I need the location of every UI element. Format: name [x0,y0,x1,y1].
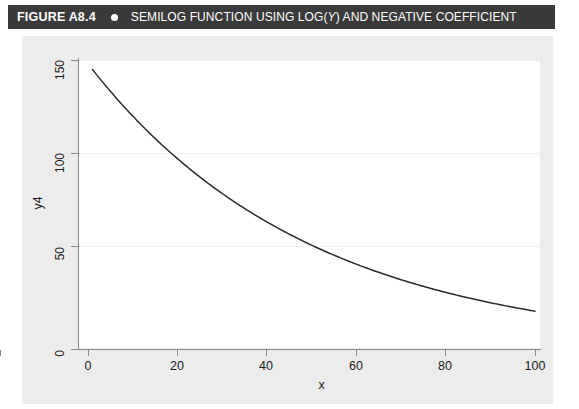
x-tick-label-40: 40 [259,359,273,373]
figure-header-banner: FIGURE A8.4 SEMILOG FUNCTION USING LOG(Y… [8,5,555,29]
gridline-y-100 [78,153,540,154]
gridline-y-150 [78,60,540,61]
plot-panel [78,60,540,348]
x-axis-spine [78,349,541,350]
x-tick-mark-0 [88,350,89,356]
x-tick-label-80: 80 [438,359,452,373]
y-tick-mark-150 [71,60,78,61]
figure-title-prefix: SEMILOG FUNCTION USING LOG( [131,10,328,24]
y-axis-spine [78,58,79,350]
x-tick-mark-40 [266,350,267,356]
y-axis-title: y4 [31,196,45,209]
x-tick-mark-20 [177,350,178,356]
y-tick-mark-50 [71,246,78,247]
x-tick-label-60: 60 [349,359,363,373]
y-tick-mark-0 [71,349,78,350]
x-axis-title: x [0,378,579,392]
x-tick-label-20: 20 [170,359,184,373]
x-tick-label-100: 100 [525,359,546,373]
x-tick-mark-60 [356,350,357,356]
y-tick-label-0: 0 [53,350,67,357]
x-axis-title-text: x [318,378,324,392]
y-tick-label-100: 100 [53,153,67,173]
x-tick-mark-100 [535,350,536,356]
gridline-y-50 [78,246,540,247]
y-tick-mark-100 [71,153,78,154]
y-tick-label-50: 50 [53,247,67,260]
x-tick-label-0: 0 [85,359,92,373]
figure-title-suffix: ) AND NEGATIVE COEFFICIENT [336,10,517,24]
figure-number-label: FIGURE A8.4 [17,10,96,24]
filled-circle-icon [111,14,118,21]
figure-title-italic-y: Y [328,10,336,24]
figure-title-label: SEMILOG FUNCTION USING LOG(Y) AND NEGATI… [131,10,517,24]
x-tick-mark-80 [445,350,446,356]
y-tick-label-150: 150 [53,60,67,80]
